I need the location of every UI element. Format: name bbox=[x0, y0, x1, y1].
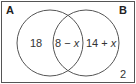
b-only-number: 14 + bbox=[86, 37, 111, 49]
intersection-number: 8 − bbox=[55, 37, 74, 49]
set-a-label: A bbox=[6, 5, 14, 16]
intersection-variable: x bbox=[74, 37, 80, 49]
a-only-value: 18 bbox=[30, 38, 42, 49]
set-b-label: B bbox=[119, 5, 127, 16]
outside-value: 2 bbox=[120, 69, 126, 80]
intersection-value: 8 − x bbox=[55, 38, 79, 49]
b-only-value: 14 + x bbox=[86, 38, 116, 49]
b-only-variable: x bbox=[111, 37, 117, 49]
